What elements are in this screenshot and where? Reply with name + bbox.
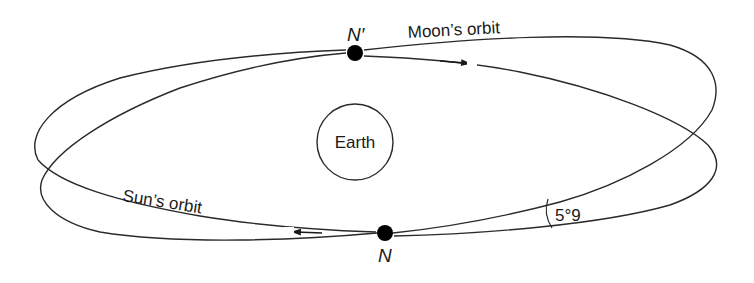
orbit-diagram: Earth N′ N Moon’s orbit Sun’s orbit 5°9 <box>0 0 754 283</box>
moon-orbit-curve <box>41 37 716 240</box>
sun-orbit-curve <box>35 50 717 236</box>
sun-orbit-label: Sun’s orbit <box>121 186 203 217</box>
arrow-gap-top <box>467 58 477 67</box>
ascending-node-dot <box>377 225 393 241</box>
inclination-angle-arc <box>546 199 552 228</box>
sun-direction-arrow <box>296 232 322 233</box>
descending-node-label: N′ <box>347 24 366 45</box>
descending-node-dot <box>347 45 363 61</box>
ascending-node-label: N <box>378 245 392 266</box>
inclination-label: 5°9 <box>555 206 581 225</box>
moon-orbit-label: Moon’s orbit <box>407 18 500 42</box>
arrow-gap-bottom <box>284 227 294 237</box>
earth-label: Earth <box>335 133 376 152</box>
moon-direction-arrow <box>440 61 466 63</box>
diagram-canvas: Earth N′ N Moon’s orbit Sun’s orbit 5°9 <box>0 0 754 283</box>
